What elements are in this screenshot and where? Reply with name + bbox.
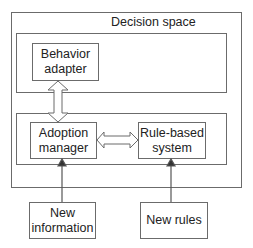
bidirectional-arrow-horizontal	[97, 132, 138, 148]
arrow-new-information	[58, 159, 66, 202]
arrow-new-rules	[167, 159, 175, 202]
connector-arrows	[0, 0, 253, 248]
bidirectional-arrow-vertical	[48, 81, 68, 122]
